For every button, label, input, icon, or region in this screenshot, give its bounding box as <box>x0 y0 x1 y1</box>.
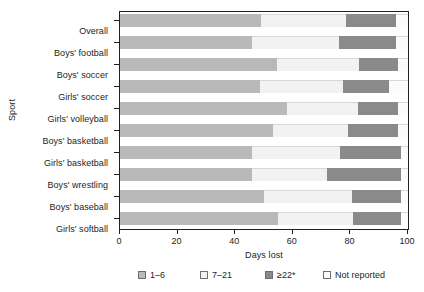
bar-segment <box>120 58 277 71</box>
bar-segment <box>252 36 338 49</box>
bar-segment <box>346 14 396 27</box>
y-axis-tick <box>114 108 119 109</box>
legend-item[interactable]: 1–6 <box>138 268 165 282</box>
x-axis-tick-label: 100 <box>392 236 422 246</box>
y-axis-tick <box>114 174 119 175</box>
x-axis-tick-label: 60 <box>277 236 307 246</box>
bar-segment <box>401 190 408 203</box>
bar-segment <box>120 14 261 27</box>
stacked-bar <box>120 102 408 115</box>
legend-item[interactable]: ≥22* <box>265 268 295 282</box>
bar-segment <box>340 146 400 159</box>
stacked-bar <box>120 124 408 137</box>
bar-segment <box>401 168 408 181</box>
y-axis-tick <box>114 64 119 65</box>
bar-segment <box>401 146 408 159</box>
bar-segment <box>120 146 252 159</box>
y-axis-tick <box>114 130 119 131</box>
bar-segment <box>398 58 408 71</box>
bar-segment <box>120 168 252 181</box>
bar-segment <box>277 58 359 71</box>
bar-segment <box>358 102 398 115</box>
y-axis-label: Boys' wrestling <box>48 179 109 192</box>
y-axis-tick <box>114 86 119 87</box>
legend-label: Not reported <box>335 268 385 282</box>
y-axis-label: Girls' soccer <box>58 91 108 104</box>
legend-swatch-icon <box>200 271 208 279</box>
stacked-bar <box>120 80 408 93</box>
plot-frame-bottom <box>119 229 409 230</box>
stacked-bar <box>120 36 408 49</box>
legend-item[interactable]: Not reported <box>323 268 385 282</box>
bar-segment <box>339 36 397 49</box>
legend-swatch-icon <box>138 271 146 279</box>
x-axis-tick <box>119 230 120 234</box>
y-axis-label: Boys' football <box>54 47 108 60</box>
stacked-bar <box>120 58 408 71</box>
plot-area <box>119 11 409 229</box>
bar-segment <box>398 124 408 137</box>
x-axis-tick <box>292 230 293 234</box>
bar-segment <box>396 14 408 27</box>
x-axis-tick <box>177 230 178 234</box>
bar-segment <box>359 58 398 71</box>
bar-segment <box>120 36 252 49</box>
chart-figure: Sport OverallBoys' footballBoys' soccerG… <box>0 0 424 292</box>
chart-legend: 1–67–21≥22*Not reported <box>0 268 424 284</box>
bar-segment <box>327 168 400 181</box>
bar-segment <box>273 124 348 137</box>
stacked-bar <box>120 14 408 27</box>
bar-segment <box>389 80 408 93</box>
x-axis-tick-label: 40 <box>219 236 249 246</box>
bar-segment <box>264 190 352 203</box>
y-axis-tick <box>114 152 119 153</box>
y-axis-category-labels: OverallBoys' footballBoys' soccerGirls' … <box>0 11 113 229</box>
bar-segment <box>261 14 346 27</box>
bar-segment <box>398 102 408 115</box>
legend-label: 1–6 <box>150 268 165 282</box>
y-axis-tick <box>114 20 119 21</box>
y-axis-label: Boys' baseball <box>50 201 108 214</box>
y-axis-label: Girls' volleyball <box>47 113 108 126</box>
bar-segment <box>343 80 389 93</box>
stacked-bar <box>120 212 408 225</box>
x-axis-tick <box>234 230 235 234</box>
x-axis-tick <box>349 230 350 234</box>
y-axis-label: Overall <box>79 25 108 38</box>
legend-label: 7–21 <box>212 268 232 282</box>
y-axis-tick <box>114 196 119 197</box>
legend-swatch-icon <box>323 271 331 279</box>
bar-segment <box>352 190 401 203</box>
bar-segment <box>252 168 327 181</box>
bar-segment <box>396 36 408 49</box>
bar-segment <box>120 190 264 203</box>
y-axis-tick <box>114 218 119 219</box>
x-axis-tick-label: 0 <box>104 236 134 246</box>
y-axis-label: Boys' basketball <box>42 135 108 148</box>
legend-item[interactable]: 7–21 <box>200 268 232 282</box>
bar-segment <box>120 80 260 93</box>
bar-segment <box>120 124 273 137</box>
bar-segment <box>120 102 287 115</box>
x-axis-tick <box>407 230 408 234</box>
stacked-bar <box>120 146 408 159</box>
x-axis-tick-label: 20 <box>162 236 192 246</box>
bar-segment <box>260 80 344 93</box>
stacked-bar <box>120 168 408 181</box>
x-axis-tick-label: 80 <box>334 236 364 246</box>
bar-segment <box>401 212 408 225</box>
legend-swatch-icon <box>265 271 273 279</box>
bar-segment <box>353 212 401 225</box>
bar-segment <box>252 146 340 159</box>
bar-segment <box>120 212 278 225</box>
x-axis-title: Days lost <box>119 250 409 260</box>
legend-label: ≥22* <box>277 268 295 282</box>
y-axis-tick <box>114 42 119 43</box>
bar-segment <box>278 212 353 225</box>
y-axis-label: Girls' basketball <box>44 157 108 170</box>
stacked-bar <box>120 190 408 203</box>
bar-segment <box>348 124 398 137</box>
bar-segment <box>287 102 358 115</box>
y-axis-label: Girls' softball <box>56 223 108 236</box>
y-axis-label: Boys' soccer <box>57 69 108 82</box>
